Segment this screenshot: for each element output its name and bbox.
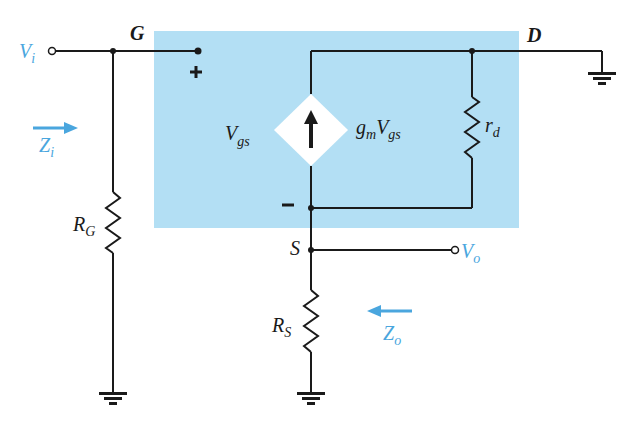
drain-label: D	[526, 24, 541, 46]
gate-label: G	[130, 22, 145, 44]
ground-icon	[588, 72, 616, 85]
input-terminal	[49, 48, 56, 55]
rg-label: RG	[72, 213, 95, 239]
arrow-right-icon	[33, 122, 78, 134]
input-impedance-label: Zi	[39, 134, 54, 160]
input-voltage-label: Vi	[19, 40, 35, 66]
circuit-diagram: G D S Vi Vo Zi Zo RG RS rd Vgs gmVgs	[0, 0, 631, 427]
arrow-left-icon	[367, 305, 412, 317]
ground-icon	[297, 392, 325, 405]
output-voltage-label: Vo	[461, 240, 480, 266]
source-label: S	[290, 237, 300, 259]
rs-label: RS	[271, 314, 291, 340]
output-terminal	[452, 247, 459, 254]
output-impedance-label: Zo	[383, 322, 401, 348]
ground-icon	[99, 392, 127, 405]
